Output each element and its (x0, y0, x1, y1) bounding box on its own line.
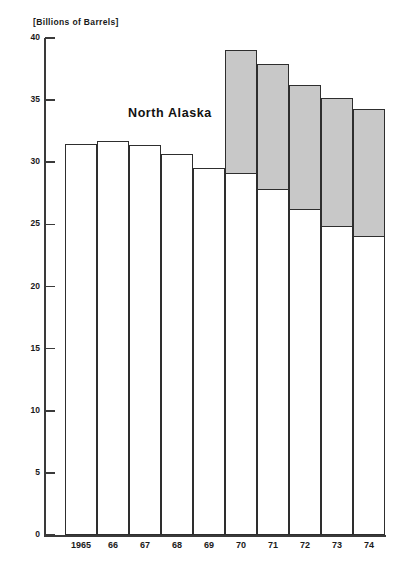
bar-group[interactable] (353, 109, 385, 535)
bar-group[interactable] (321, 98, 353, 535)
x-tick-label: 68 (161, 541, 193, 550)
x-tick-label: 74 (353, 541, 385, 550)
bar-segment-base[interactable] (225, 172, 257, 535)
x-tick-label: 67 (129, 541, 161, 550)
bar-segment-north-alaska[interactable] (321, 98, 353, 228)
bar-segment-base[interactable] (65, 144, 97, 535)
bar-segment-base[interactable] (193, 168, 225, 535)
bar-group[interactable] (257, 64, 289, 535)
bar-segment-base[interactable] (289, 208, 321, 535)
bar-segment-base[interactable] (353, 236, 385, 535)
x-tick-label: 71 (257, 541, 289, 550)
bar-group[interactable] (225, 50, 257, 535)
x-tick-label: 69 (193, 541, 225, 550)
x-tick-label: 1965 (65, 541, 97, 550)
bar-group[interactable] (161, 154, 193, 535)
bar-segment-north-alaska[interactable] (289, 85, 321, 210)
x-tick-label: 72 (289, 541, 321, 550)
bar-group[interactable] (129, 145, 161, 535)
bar-segment-base[interactable] (257, 188, 289, 535)
bar-group[interactable] (65, 144, 97, 535)
bar-chart: [Billions of Barrels] 4035302520151050 1… (0, 0, 397, 578)
x-axis-line (44, 535, 386, 537)
bar-segment-base[interactable] (129, 145, 161, 535)
x-tick-label: 66 (97, 541, 129, 550)
bar-segment-base[interactable] (161, 154, 193, 535)
x-tick-label: 73 (321, 541, 353, 550)
bar-group[interactable] (289, 85, 321, 535)
north-alaska-annotation: North Alaska (128, 106, 212, 120)
plot-area (0, 0, 397, 578)
bar-segment-north-alaska[interactable] (225, 50, 257, 173)
bar-group[interactable] (193, 168, 225, 535)
bar-segment-north-alaska[interactable] (353, 109, 385, 237)
bar-segment-base[interactable] (97, 141, 129, 535)
x-tick-label: 70 (225, 541, 257, 550)
bar-segment-base[interactable] (321, 226, 353, 535)
bar-group[interactable] (97, 141, 129, 535)
bar-segment-north-alaska[interactable] (257, 64, 289, 190)
